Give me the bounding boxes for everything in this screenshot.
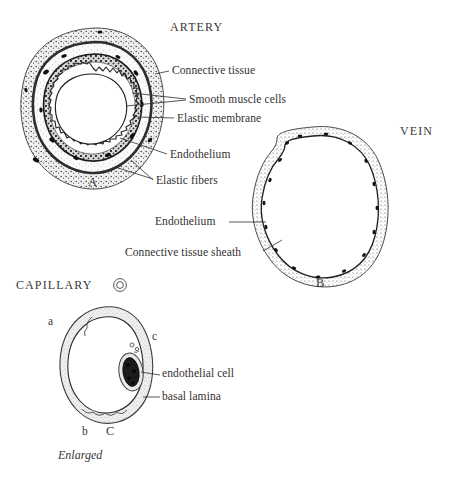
vein-cross-section — [229, 115, 405, 300]
capillary-callout-basal-lamina: basal lamina — [162, 390, 221, 403]
panel-letter-c: C — [106, 424, 114, 439]
panel-letter-a: A — [88, 175, 97, 190]
artery-callout-elastic-membrane: Elastic membrane — [177, 112, 261, 125]
heading-artery: ARTERY — [170, 20, 223, 35]
panel-letter-b: B — [316, 276, 324, 291]
heading-capillary: CAPILLARY — [16, 278, 93, 293]
artery-cross-section — [10, 20, 186, 200]
capillary-leader-lines — [141, 372, 160, 397]
capillary-callout-endothelial-cell: endothelial cell — [162, 367, 234, 380]
capillary-actual-size-icon — [114, 279, 127, 292]
capillary-scale-note: Enlarged — [58, 448, 102, 463]
heading-vein: VEIN — [400, 124, 433, 139]
artery-callout-endothelium: Endothelium — [170, 148, 231, 161]
artery-callout-elastic-fibers: Elastic fibers — [156, 174, 218, 187]
artery-callout-smooth-muscle-cells: Smooth muscle cells — [189, 93, 286, 106]
capillary-marker-b: b — [82, 425, 88, 437]
vein-callout-endothelium: Endothelium — [155, 215, 216, 228]
capillary-marker-c: c — [152, 330, 157, 342]
blood-vessel-figure: ARTERY VEIN CAPILLARY Connective tissue … — [0, 0, 457, 478]
artery-leader-lines — [118, 71, 186, 180]
capillary-marker-a: a — [48, 315, 53, 327]
vein-callout-connective-tissue-sheath: Connective tissue sheath — [125, 246, 241, 259]
artery-callout-connective-tissue: Connective tissue — [172, 64, 255, 77]
capillary-cross-section — [50, 279, 165, 430]
